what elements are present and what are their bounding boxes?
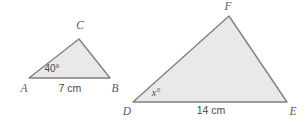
triangle-abc-shape (29, 39, 110, 78)
vertex-label-c: C (76, 19, 84, 31)
triangle-def-group: D E F x° 14 cm (122, 0, 297, 117)
geometry-canvas: A B C 40° 7 cm D E F x° 14 cm (0, 0, 306, 124)
vertex-label-d: D (122, 105, 132, 117)
angle-label-d-x-deg: x° (151, 87, 160, 98)
base-measure-de-14cm: 14 cm (197, 104, 226, 116)
triangle-abc-group: A B C 40° 7 cm (19, 19, 118, 94)
vertex-label-a: A (19, 82, 28, 94)
base-measure-ab-7cm: 7 cm (59, 82, 82, 94)
vertex-label-f: F (223, 0, 232, 12)
angle-label-a-40deg: 40° (44, 63, 59, 74)
vertex-label-b: B (111, 82, 118, 94)
geometry-figure: A B C 40° 7 cm D E F x° 14 cm (0, 0, 306, 124)
vertex-label-e: E (288, 105, 296, 117)
